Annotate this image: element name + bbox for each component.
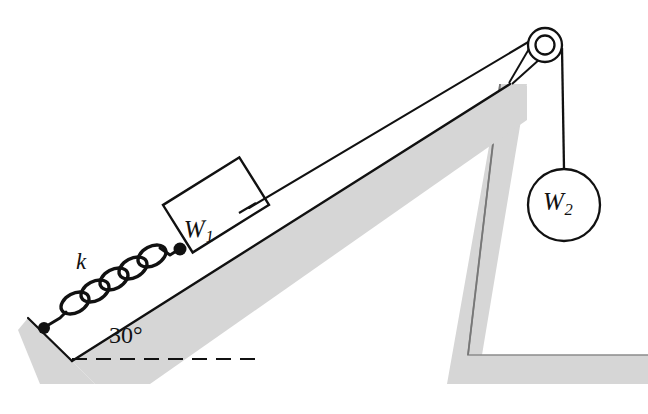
hanging-weight-symbol: W bbox=[543, 188, 564, 215]
block-weight-label: W1 bbox=[183, 214, 214, 247]
figure-canvas: k 30° W1 W2 bbox=[0, 0, 648, 414]
pulley bbox=[528, 28, 562, 62]
hanging-weight-subscript: 2 bbox=[564, 200, 573, 219]
spring-constant-label: k bbox=[76, 249, 86, 275]
spring-coil-5 bbox=[134, 241, 169, 272]
block-weight-symbol: W bbox=[183, 215, 205, 243]
block-weight-subscript: 1 bbox=[205, 226, 215, 245]
pulley-axle bbox=[536, 36, 555, 55]
hanging-weight-label: W2 bbox=[543, 188, 573, 220]
spring-lower-anchor-dot bbox=[38, 322, 50, 334]
incline-surface-line bbox=[72, 84, 510, 361]
incline-angle-label: 30° bbox=[109, 322, 143, 349]
incline-left-wall bbox=[18, 318, 95, 384]
hanging-cord bbox=[562, 48, 564, 169]
incline-surface bbox=[28, 84, 510, 361]
